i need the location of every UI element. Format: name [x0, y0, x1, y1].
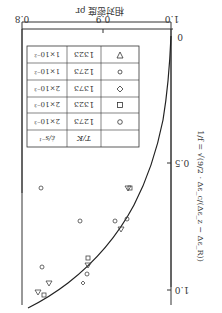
point-square	[42, 293, 46, 297]
legend-row3-T: 1373	[74, 84, 94, 93]
xtick-0: 0	[177, 32, 183, 42]
chart: 图 2-60 MgO 的致密化 [11] 1.0 0.9 0.8 0 0.5 1…	[0, 0, 222, 313]
legend-row5-rate: 1×10⁻²	[34, 50, 60, 58]
legend-header-T: T/K	[76, 134, 91, 143]
legend-row2-T: 1323	[74, 100, 94, 109]
legend-header-rate: ε̇/s⁻¹	[39, 134, 55, 142]
ytick-1.0: 1.0	[165, 14, 180, 24]
point-circle	[113, 219, 117, 223]
legend-row5-T: 1323	[74, 50, 94, 59]
legend-row4-rate: 1×10⁻²	[34, 67, 60, 75]
legend-row4-T: 1273	[74, 67, 94, 76]
legend-row1-rate: 2×10⁻³	[34, 117, 60, 125]
point-square	[86, 256, 90, 260]
figure: 图 2-60 MgO 的致密化 [11] 1.0 0.9 0.8 0 0.5 1…	[0, 0, 222, 313]
density-axis-label: 相对密度 ρr	[75, 6, 124, 17]
legend-row3-rate: 2×10⁻³	[34, 84, 60, 92]
point-triangle	[35, 290, 41, 295]
point-diamond	[81, 281, 85, 285]
f-axis-label: 1/f = √(9/2 · Δε_c/(Δε_z − Δε_R))	[196, 130, 205, 262]
point-circle	[85, 272, 89, 276]
legend-table: 1323 1×10⁻² 1273 1×10⁻² 1373 2×10⁻³ 1323…	[27, 46, 139, 147]
point-circle	[78, 219, 82, 223]
point-circle	[40, 265, 44, 269]
xtick-1.0: 1.0	[175, 285, 190, 295]
xtick-0.5: 0.5	[175, 158, 190, 168]
data-points	[35, 186, 132, 297]
point-circle	[39, 186, 43, 190]
legend-row1-T: 1273	[74, 117, 94, 126]
point-triangle	[46, 281, 52, 286]
legend-row2-rate: 2×10⁻³	[34, 100, 60, 108]
ytick-0.8: 0.8	[15, 14, 30, 24]
